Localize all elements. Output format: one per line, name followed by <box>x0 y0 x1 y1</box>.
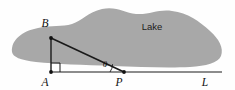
lake-label: Lake <box>142 21 163 32</box>
point-marker-A <box>49 70 53 74</box>
lake-geometry-figure: Lake θ B A P L <box>0 0 235 90</box>
point-marker-P <box>122 70 126 74</box>
vertex-label-L: L <box>201 76 208 88</box>
point-marker-B <box>49 36 53 40</box>
figure-canvas: Lake θ B A P L <box>0 0 235 90</box>
vertex-label-P: P <box>114 76 122 88</box>
vertex-label-B: B <box>41 17 48 29</box>
vertex-label-A: A <box>40 76 49 88</box>
angle-label-theta: θ <box>103 59 108 69</box>
